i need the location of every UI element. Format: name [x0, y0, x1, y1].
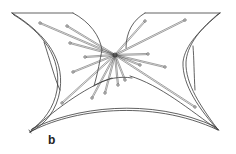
bottom-edge-outer	[30, 110, 218, 132]
pin	[66, 25, 116, 56]
pin-head	[84, 56, 86, 58]
pin-head	[91, 97, 93, 99]
pin-head	[72, 71, 74, 73]
pin	[115, 19, 186, 56]
pin	[115, 54, 197, 108]
pins-group	[39, 19, 196, 108]
pin	[115, 20, 147, 56]
pin-head	[66, 25, 68, 27]
pin	[91, 55, 116, 99]
panel-label: b	[48, 133, 55, 147]
pin-head	[69, 42, 71, 44]
pin-head	[117, 84, 119, 86]
pin-head	[144, 20, 146, 22]
membrane-pin-diagram	[0, 0, 236, 154]
pin-head	[61, 102, 63, 104]
pin	[114, 55, 119, 86]
pin-head	[147, 53, 149, 55]
pin-head	[104, 92, 106, 94]
pin-head	[164, 66, 166, 68]
pin	[69, 42, 115, 56]
pin-head	[139, 64, 141, 66]
pin-head	[39, 22, 41, 24]
pin-head	[184, 19, 186, 21]
right-edge-fold	[193, 46, 195, 90]
pin-head	[194, 106, 196, 108]
pin-head	[124, 79, 126, 81]
